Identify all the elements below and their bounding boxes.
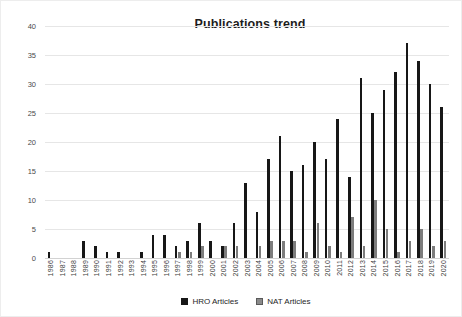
x-tick-label-2017: 2017 (405, 260, 412, 276)
square-black-icon (181, 298, 188, 305)
bar (302, 165, 305, 258)
x-tick-label-2019: 2019 (428, 260, 435, 276)
bar-group (276, 26, 288, 258)
bar (190, 252, 193, 258)
bar-group (207, 26, 219, 258)
bar-group (91, 26, 103, 258)
bar-group (322, 26, 334, 258)
bar (325, 159, 328, 258)
bar (317, 223, 320, 258)
x-tick-label-2007: 2007 (290, 260, 297, 276)
y-tick-label-30: 30 (28, 80, 36, 89)
bar (397, 252, 400, 258)
x-tick-label-2016: 2016 (394, 260, 401, 276)
x-tick-label-1997: 1997 (174, 260, 181, 276)
x-tick-label-1998: 1998 (186, 260, 193, 276)
x-tick-label-1999: 1999 (197, 260, 204, 276)
bar (209, 241, 212, 258)
bar (140, 252, 143, 258)
bar-group (149, 26, 161, 258)
bar-group (45, 26, 57, 258)
x-tick-label-2008: 2008 (301, 260, 308, 276)
bar (374, 200, 377, 258)
y-tick-label-35: 35 (28, 51, 36, 60)
legend-item[interactable]: NAT Articles (256, 297, 310, 306)
bar (351, 217, 354, 258)
bar (236, 246, 239, 258)
bar (201, 246, 204, 258)
bars-layer (45, 26, 449, 258)
bar-group (403, 26, 415, 258)
bar-group (172, 26, 184, 258)
bar (221, 246, 224, 258)
bar-group (80, 26, 92, 258)
y-tick-label-5: 5 (32, 225, 36, 234)
plot-area (45, 26, 449, 258)
x-tick-label-1995: 1995 (151, 260, 158, 276)
x-tick-label-2001: 2001 (220, 260, 227, 276)
bar-group (241, 26, 253, 258)
bar-group (195, 26, 207, 258)
bar (175, 246, 178, 258)
legend-item[interactable]: HRO Articles (181, 297, 238, 306)
square-gray-icon (256, 298, 263, 305)
bar (256, 212, 259, 258)
bar-group (334, 26, 346, 258)
bar (363, 246, 366, 258)
bar (117, 252, 120, 258)
chart-legend: HRO ArticlesNAT Articles (1, 297, 461, 306)
bar-group (299, 26, 311, 258)
y-tick-label-25: 25 (28, 109, 36, 118)
x-tick-label-2011: 2011 (336, 260, 343, 276)
bar (186, 241, 189, 258)
bar (429, 84, 432, 258)
x-tick-label-2009: 2009 (313, 260, 320, 276)
bar-group (357, 26, 369, 258)
x-tick-label-1993: 1993 (128, 260, 135, 276)
bar (267, 159, 270, 258)
bar-group (57, 26, 69, 258)
bar (371, 113, 374, 258)
bar (290, 171, 293, 258)
bar (406, 43, 409, 258)
x-tick-label-1996: 1996 (163, 260, 170, 276)
bar (233, 223, 236, 258)
bar (420, 229, 423, 258)
x-tick-label-2002: 2002 (232, 260, 239, 276)
bar-group (391, 26, 403, 258)
bar-group (218, 26, 230, 258)
bar (336, 119, 339, 258)
bar-group (345, 26, 357, 258)
bar-group (103, 26, 115, 258)
bar-group (368, 26, 380, 258)
x-tick-label-2013: 2013 (359, 260, 366, 276)
x-tick-label-1989: 1989 (82, 260, 89, 276)
x-tick-label-2018: 2018 (417, 260, 424, 276)
bar-group (253, 26, 265, 258)
bar (348, 177, 351, 258)
y-tick-label-20: 20 (28, 138, 36, 147)
x-tick-label-2003: 2003 (244, 260, 251, 276)
bar (152, 235, 155, 258)
bar (293, 241, 296, 258)
bar (444, 241, 447, 258)
x-tick-label-2000: 2000 (209, 260, 216, 276)
x-tick-label-2014: 2014 (370, 260, 377, 276)
bar-group (137, 26, 149, 258)
x-tick-label-2010: 2010 (324, 260, 331, 276)
bar (432, 246, 435, 258)
bar (282, 241, 285, 258)
bar-group (437, 26, 449, 258)
bar (279, 136, 282, 258)
bar (440, 107, 443, 258)
bar-group (184, 26, 196, 258)
x-tick-label-2005: 2005 (267, 260, 274, 276)
x-tick-label-2006: 2006 (278, 260, 285, 276)
bar-group (160, 26, 172, 258)
bar (106, 252, 109, 258)
x-tick-label-2020: 2020 (440, 260, 447, 276)
bar (383, 90, 386, 258)
bar (328, 246, 331, 258)
bar (394, 72, 397, 258)
bar-group (310, 26, 322, 258)
